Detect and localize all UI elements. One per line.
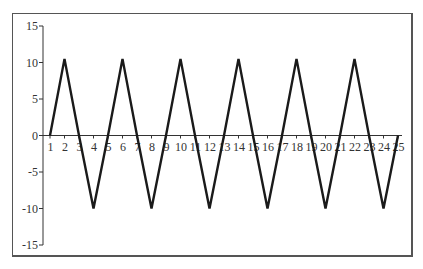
x-tick-label: 2 (62, 140, 68, 154)
x-tick-label: 8 (149, 140, 155, 154)
x-tick-label: 20 (320, 140, 332, 154)
x-tick-label: 12 (204, 140, 216, 154)
x-tick-label: 16 (262, 140, 274, 154)
y-tick-label: 5 (32, 92, 38, 106)
y-tick-label: -5 (28, 165, 38, 179)
y-tick-label: 15 (26, 19, 38, 33)
line-chart: 151050-5-10-1512345678910111213141516171… (0, 0, 423, 269)
y-tick-label: 10 (26, 56, 38, 70)
x-tick-label: 24 (378, 140, 390, 154)
y-tick-label: -15 (22, 238, 38, 252)
y-tick-label: -10 (22, 202, 38, 216)
x-tick-label: 22 (349, 140, 361, 154)
y-tick-label: 0 (32, 129, 38, 143)
x-tick-label: 18 (291, 140, 303, 154)
series-line (50, 59, 398, 209)
x-tick-label: 14 (233, 140, 245, 154)
x-tick-label: 10 (175, 140, 187, 154)
x-tick-label: 6 (120, 140, 126, 154)
x-tick-label: 1 (48, 140, 54, 154)
x-tick-label: 4 (91, 140, 97, 154)
